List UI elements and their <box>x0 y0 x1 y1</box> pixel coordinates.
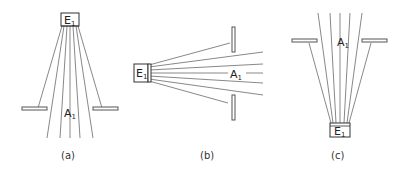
panel-a: E1 A1 (a) <box>22 13 118 161</box>
panel-c: E1 A1 (c) <box>292 13 387 161</box>
panel-b: E1 A1 (b) <box>134 27 263 161</box>
caption-b: (b) <box>200 150 214 161</box>
aperture-label-b: A1 <box>230 68 242 82</box>
aperture-plate-right-a <box>93 107 118 110</box>
aperture-plate-left-a <box>22 107 47 110</box>
aperture-plate-bottom-b <box>232 95 235 120</box>
diagram-canvas: E1 A1 (a) E1 A1 (b) E1 <box>0 0 408 171</box>
aperture-label-a: A1 <box>64 107 76 121</box>
aperture-plate-top-b <box>232 27 235 52</box>
aperture-label-c: A1 <box>337 36 349 50</box>
caption-a: (a) <box>61 150 75 161</box>
caption-c: (c) <box>331 150 344 161</box>
aperture-plate-left-c <box>292 39 317 42</box>
aperture-plate-right-c <box>362 39 387 42</box>
